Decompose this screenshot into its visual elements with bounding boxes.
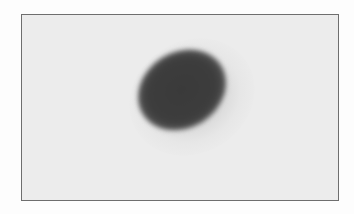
image-frame (21, 14, 339, 201)
